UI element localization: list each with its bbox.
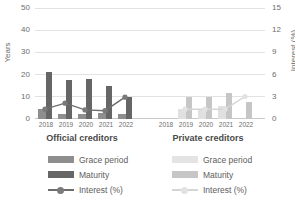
plot-area <box>35 6 265 119</box>
y-axis-left-label: Years <box>3 30 12 76</box>
legend-label-interest-priv: Interest (%) <box>203 185 247 195</box>
x-tick-official-2019: 2019 <box>55 121 77 128</box>
y-tick-left-1: 10 <box>12 93 30 101</box>
y-tick-right-2: 6 <box>272 71 288 79</box>
interest-line-official <box>37 6 137 119</box>
legend-line-marker-icon <box>48 186 74 193</box>
legend-item-grace-private: Grace period <box>172 152 252 167</box>
y-tick-right-1: 3 <box>272 93 288 101</box>
group-title-private: Private creditors <box>148 133 268 143</box>
legend-item-maturity-private: Maturity <box>172 167 252 182</box>
y-tick-right-4: 12 <box>272 26 288 34</box>
x-tick-official-2021: 2021 <box>95 121 117 128</box>
x-tick-private-2022: 2022 <box>235 121 257 128</box>
legend-swatch-maturity-priv-icon <box>172 171 198 178</box>
x-tick-private-2020: 2020 <box>195 121 217 128</box>
y-tick-right-3: 9 <box>272 48 288 56</box>
legend-item-grace-official: Grace period <box>48 152 128 167</box>
y-tick-left-3: 30 <box>12 48 30 56</box>
legend-official: Grace period Maturity Interest (%) <box>48 152 128 197</box>
x-tick-official-2018: 2018 <box>35 121 57 128</box>
chart-container: Years Interest (%) 50 40 30 20 10 0 15 1… <box>0 0 295 201</box>
legend-item-interest-private: Interest (%) <box>172 182 252 197</box>
legend-line-marker-priv-icon <box>172 186 198 193</box>
y-tick-left-5: 50 <box>12 4 30 12</box>
y-tick-left-2: 20 <box>12 71 30 79</box>
legend-swatch-grace-priv-icon <box>172 156 198 163</box>
x-tick-official-2022: 2022 <box>115 121 137 128</box>
y-tick-left-4: 40 <box>12 26 30 34</box>
group-title-official: Official creditors <box>22 133 142 143</box>
x-tick-private-2019: 2019 <box>175 121 197 128</box>
interest-line-private <box>157 6 257 119</box>
y-tick-right-5: 15 <box>272 4 288 12</box>
panel-private-creditors <box>157 6 257 119</box>
panel-official-creditors <box>37 6 137 119</box>
legend-swatch-maturity-icon <box>48 171 74 178</box>
y-axis-right-label: Interest (%) <box>289 26 296 76</box>
legend-item-maturity-official: Maturity <box>48 167 128 182</box>
legend-label-interest: Interest (%) <box>79 185 123 195</box>
legend-label-maturity: Maturity <box>79 170 109 180</box>
legend-swatch-grace-icon <box>48 156 74 163</box>
x-tick-private-2018: 2018 <box>155 121 177 128</box>
legend-private: Grace period Maturity Interest (%) <box>172 152 252 197</box>
y-tick-left-0: 0 <box>12 115 30 123</box>
x-tick-private-2021: 2021 <box>215 121 237 128</box>
x-tick-official-2020: 2020 <box>75 121 97 128</box>
legend-label-grace-priv: Grace period <box>203 155 252 165</box>
legend-label-grace: Grace period <box>79 155 128 165</box>
legend-label-maturity-priv: Maturity <box>203 170 233 180</box>
y-tick-right-0: 0 <box>272 115 288 123</box>
legend-item-interest-official: Interest (%) <box>48 182 128 197</box>
